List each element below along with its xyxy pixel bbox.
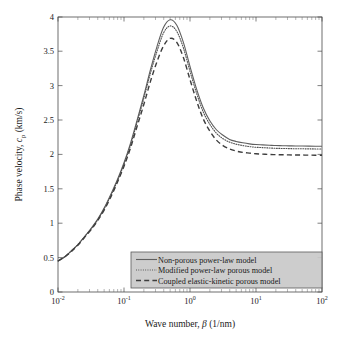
ytick-label-2: 1 bbox=[50, 218, 54, 228]
x-axis-title: Wave number, β (1/nm) bbox=[145, 319, 235, 330]
ytick-label-4: 2 bbox=[50, 149, 54, 159]
legend-label-0: Non-porous power-law model bbox=[158, 256, 257, 265]
xtick-label-3: 101 bbox=[250, 295, 262, 306]
phase-velocity-line-chart: 0 0.5 1 1.5 2 2.5 3 3.5 4 bbox=[0, 0, 342, 346]
xtick-label-0: 10-2 bbox=[51, 295, 65, 306]
xtick-label-2: 100 bbox=[184, 295, 196, 306]
legend: Non-porous power-law model Modified powe… bbox=[131, 252, 322, 288]
data-curves bbox=[58, 20, 322, 261]
ytick-label-6: 3 bbox=[50, 81, 54, 91]
xtick-label-4: 102 bbox=[316, 295, 328, 306]
y-axis-title: Phase velocity, cp (km/s) bbox=[14, 108, 26, 202]
legend-label-1: Modified power-law porous model bbox=[158, 266, 273, 275]
legend-item-2[interactable]: Coupled elastic-kinetic porous model bbox=[136, 277, 281, 286]
curve-non-porous-power-law bbox=[58, 20, 322, 261]
curve-modified-power-law-porous bbox=[58, 26, 322, 261]
ytick-label-1: 0.5 bbox=[43, 253, 54, 263]
ytick-label-7: 3.5 bbox=[43, 46, 54, 56]
legend-label-2: Coupled elastic-kinetic porous model bbox=[158, 277, 281, 286]
xtick-label-1: 10-1 bbox=[117, 295, 131, 306]
ytick-label-8: 4 bbox=[50, 12, 55, 22]
ytick-label-5: 2.5 bbox=[43, 115, 54, 125]
chart-figure: 0 0.5 1 1.5 2 2.5 3 3.5 4 bbox=[0, 0, 342, 346]
ytick-label-3: 1.5 bbox=[43, 184, 54, 194]
